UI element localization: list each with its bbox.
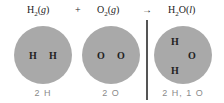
hydrogen-atoms-circle: H H [14, 26, 72, 84]
atom-o: O [188, 50, 196, 61]
atom-h: H [29, 50, 37, 61]
reaction-divider [146, 20, 148, 100]
atom-h: H [171, 65, 179, 76]
product-water: H2O(l) [168, 4, 195, 18]
reactant-hydrogen: H2(g) [27, 4, 49, 18]
reactant-oxygen: O2(g) [97, 4, 119, 18]
atom-o: O [97, 50, 105, 61]
atom-o: O [117, 50, 125, 61]
water-count-label: 2 H, 1 O [162, 88, 204, 98]
atom-h: H [49, 50, 57, 61]
plus-sign: + [75, 4, 81, 15]
oxygen-count-label: 2 O [102, 88, 120, 98]
atom-h: H [171, 36, 179, 47]
hydrogen-count-label: 2 H [34, 88, 51, 98]
reaction-arrow: → [142, 4, 152, 15]
water-atoms-circle: H O H [154, 26, 212, 84]
oxygen-atoms-circle: O O [82, 26, 140, 84]
